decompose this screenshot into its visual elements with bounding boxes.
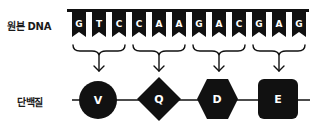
base-flag: C: [232, 11, 246, 37]
amino-acid-letter: E: [274, 93, 282, 106]
base-letter: A: [276, 19, 283, 29]
base-letter: C: [116, 19, 123, 29]
base-flag: A: [152, 11, 166, 37]
base-letter: A: [176, 19, 183, 29]
base-letter: G: [295, 19, 302, 29]
base-flag: T: [92, 11, 106, 37]
amino-acid-letter: D: [212, 93, 221, 106]
codon-braces: [73, 45, 305, 71]
brace-arrow: [253, 45, 305, 71]
base-letter: A: [156, 19, 163, 29]
brace-arrow: [193, 45, 245, 71]
base-flag: G: [292, 11, 306, 37]
base-flag: G: [252, 11, 266, 37]
dna-bases: G T C C A A G A: [72, 11, 306, 37]
base-letter: C: [136, 19, 143, 29]
base-letter: G: [195, 19, 202, 29]
amino-acid-d: D: [197, 79, 238, 119]
base-flag: A: [272, 11, 286, 37]
translation-diagram: G T C C A A G A: [0, 0, 327, 133]
amino-acid-e: E: [258, 79, 298, 119]
base-letter: A: [216, 19, 223, 29]
base-letter: G: [255, 19, 262, 29]
brace-arrow: [133, 45, 185, 71]
amino-acid-v: V: [79, 81, 117, 119]
base-letter: T: [96, 19, 103, 29]
base-flag: G: [72, 11, 86, 37]
amino-acid-q: Q: [137, 77, 181, 121]
amino-acid-letter: Q: [154, 93, 163, 106]
base-letter: G: [75, 19, 82, 29]
base-flag: A: [212, 11, 226, 37]
amino-acid-letter: V: [94, 94, 103, 107]
base-flag: C: [112, 11, 126, 37]
base-flag: G: [192, 11, 206, 37]
brace-arrow: [73, 45, 125, 71]
base-letter: C: [236, 19, 243, 29]
base-flag: A: [172, 11, 186, 37]
base-flag: C: [132, 11, 146, 37]
